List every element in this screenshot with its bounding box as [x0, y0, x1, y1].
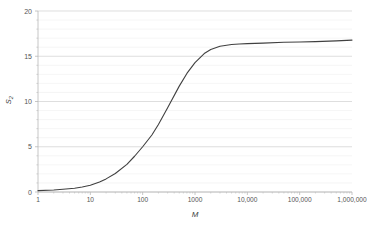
y-axis-tick-label: 5: [8, 143, 32, 150]
x-axis-tick-label: 10: [87, 196, 94, 203]
x-axis-tick-label: 100: [137, 196, 148, 203]
y-axis-tick-label: 20: [8, 8, 32, 15]
data-series: [38, 40, 352, 191]
y-axis-tick-label: 0: [8, 189, 32, 196]
x-axis-tick-label: 100,000: [288, 196, 312, 203]
x-axis-tick-label: 1,000,000: [337, 196, 366, 203]
y-axis-tick-label: 15: [8, 53, 32, 60]
axis-ticks: [35, 11, 352, 195]
x-axis-title: M: [38, 210, 352, 219]
x-axis-tick-label: 1: [36, 196, 40, 203]
x-axis-tick-label: 10,000: [237, 196, 257, 203]
y-axis-tick-labels: 05101520: [0, 0, 32, 225]
y-axis-tick-label: 10: [8, 98, 32, 105]
x-axis-tick-label: 1000: [188, 196, 203, 203]
